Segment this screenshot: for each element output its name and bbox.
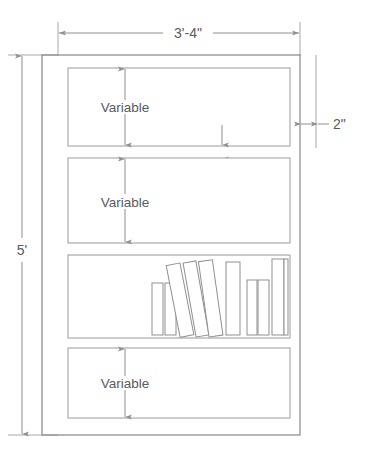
compartment-4-label: Variable [101,376,150,391]
book-9 [272,259,284,335]
shelf-compartment-1: Variable [68,68,290,146]
book-6 [226,262,240,335]
shelf-compartment-4: Variable [68,348,290,418]
shelf-compartment-3 [68,255,290,338]
dimension-left-height: 5' [17,56,27,434]
book-7 [247,280,257,335]
compartment-2-label: Variable [101,195,150,210]
cad-drawing-canvas: 3'-4" 5' Variable 2" 2" [0,0,366,459]
dimension-right-shelf-thickness: 2" [301,55,346,148]
book-10 [284,259,288,335]
shelf-compartment-2: Variable [68,158,290,243]
bookcase-elevation-drawing: 3'-4" 5' Variable 2" 2" [0,0,366,459]
dimension-label-width: 3'-4" [174,25,202,41]
dimension-top-width: 3'-4" [59,25,299,41]
dimension-right-label: 2" [333,116,346,132]
compartment-1-label: Variable [101,100,150,115]
book-8 [258,280,269,335]
book-1 [152,283,163,335]
dimension-label-height: 5' [17,242,27,258]
